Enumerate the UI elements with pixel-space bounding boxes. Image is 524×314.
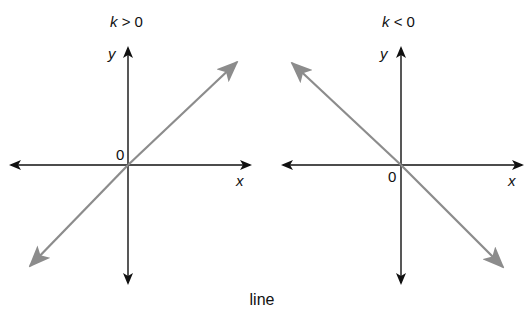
title-relation: > 0 — [118, 13, 143, 30]
panel-title: k > 0 — [110, 13, 143, 30]
figure-caption: line — [0, 291, 524, 309]
y-axis-label: y — [108, 45, 116, 62]
positive-slope-line — [128, 62, 237, 165]
positive-slope-line — [30, 165, 128, 266]
y-axis-label: y — [380, 45, 388, 62]
panel-title: k < 0 — [382, 13, 415, 30]
negative-slope-line — [401, 165, 503, 267]
origin-label: 0 — [388, 168, 396, 185]
x-axis-label: x — [236, 172, 244, 189]
title-relation: < 0 — [390, 13, 415, 30]
title-variable: k — [110, 13, 118, 30]
panel-positive-slope — [11, 48, 250, 283]
negative-slope-line — [292, 63, 401, 165]
title-variable: k — [382, 13, 390, 30]
diagram-canvas — [0, 0, 524, 314]
panel-negative-slope — [283, 48, 522, 283]
x-axis-label: x — [508, 172, 516, 189]
origin-label: 0 — [116, 146, 124, 163]
